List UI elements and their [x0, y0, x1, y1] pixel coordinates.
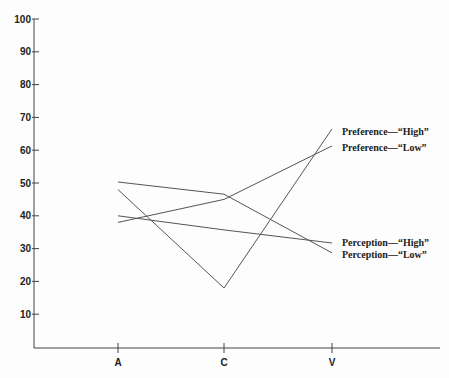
y-tick-label: 100: [14, 14, 31, 25]
series-line: [118, 146, 332, 223]
y-tick-label: 20: [20, 276, 32, 287]
series-line: [118, 216, 332, 243]
y-tick-label: 40: [20, 210, 32, 221]
series-label: Preference—“High”: [342, 126, 429, 137]
y-tick-label: 10: [20, 309, 32, 320]
chart-canvas: 102030405060708090100ACVPreference—“High…: [0, 0, 449, 378]
x-tick-label: V: [329, 357, 336, 368]
series-label: Perception—“High”: [342, 237, 429, 248]
series-label: Preference—“Low”: [342, 142, 427, 153]
y-tick-label: 70: [20, 112, 32, 123]
y-tick-label: 60: [20, 145, 32, 156]
line-chart: 102030405060708090100ACVPreference—“High…: [0, 0, 449, 378]
y-tick-label: 50: [20, 178, 32, 189]
series-label: Perception—“Low”: [342, 249, 427, 260]
y-tick-label: 30: [20, 243, 32, 254]
x-tick-label: C: [220, 357, 227, 368]
series-line: [118, 182, 332, 253]
y-tick-label: 80: [20, 79, 32, 90]
y-tick-label: 90: [20, 46, 32, 57]
x-tick-label: A: [114, 357, 121, 368]
series-line: [118, 129, 332, 288]
